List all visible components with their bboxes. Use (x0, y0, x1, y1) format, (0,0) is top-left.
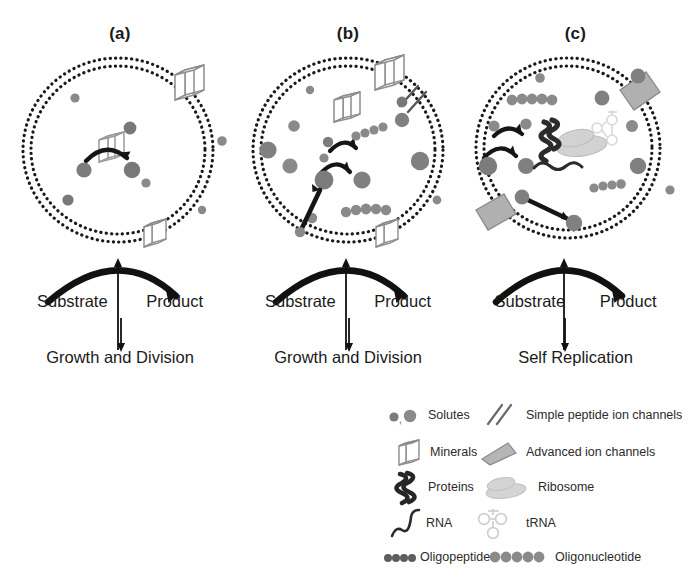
panel-c: (c) (460, 0, 691, 400)
ribosome-icon (480, 475, 530, 501)
trna-icon (474, 507, 518, 539)
product-label-c: Product (600, 292, 657, 311)
solute (630, 158, 646, 174)
reaction-network-c (484, 128, 522, 158)
legend-label-trna: tRNA (526, 516, 556, 530)
product-label-a: Product (146, 292, 203, 311)
solute (433, 196, 442, 205)
legend: , Solutes Simple peptide ion channels Mi… (380, 400, 691, 580)
legend-label-solutes: Solutes (428, 408, 470, 422)
panel-c-label: (c) (460, 24, 691, 44)
solute (397, 97, 408, 108)
substrate-label-a: Substrate (37, 292, 108, 311)
legend-row-rna: RNA tRNA (380, 506, 691, 540)
substrate-label-b: Substrate (265, 292, 336, 311)
solute (288, 120, 300, 132)
solute (665, 185, 674, 194)
solute (520, 118, 531, 129)
substrate-label-c: Substrate (494, 292, 565, 311)
flow-labels-b: Substrate Product (232, 292, 464, 311)
solute (488, 120, 499, 131)
protocell-b (232, 48, 464, 258)
mineral-membrane-b (376, 219, 398, 247)
solute (566, 215, 582, 231)
solute-product-b (353, 171, 370, 188)
solute-substrate-b (315, 171, 334, 190)
solute (411, 152, 429, 170)
legend-label-advanced-channels: Advanced ion channels (526, 445, 655, 459)
solute (282, 158, 297, 173)
legend-label-ribosome: Ribosome (538, 480, 594, 494)
legend-label-oligonucleotide: Oligonucleotide (555, 550, 641, 564)
protein-helix-c (541, 120, 559, 161)
mineral-external-b (375, 55, 404, 90)
mineral-catalyst-a (99, 132, 124, 162)
solute (217, 136, 227, 146)
solute (515, 190, 530, 205)
solute (626, 120, 638, 132)
solute (198, 206, 206, 214)
minerals-icon (394, 437, 428, 467)
protocell-c (460, 48, 691, 258)
solute (395, 113, 409, 127)
solute-substrate-c (479, 157, 497, 175)
legend-row-oligos: Oligopeptide Oligonucleotide (380, 542, 691, 576)
protocell-a (0, 48, 240, 258)
outcome-label-b: Growth and Division (232, 348, 464, 367)
mineral-membrane-a (144, 219, 166, 247)
mineral-internal-b (334, 92, 360, 122)
rna-icon-c (534, 163, 582, 170)
solute (319, 153, 328, 162)
solute (70, 93, 79, 102)
legend-row-solutes: , Solutes Simple peptide ion channels (380, 400, 691, 434)
legend-label-proteins: Proteins (428, 480, 474, 494)
solute-product-c (518, 158, 534, 174)
panel-b-label: (b) (232, 24, 464, 44)
outcome-label-c: Self Replication (460, 348, 691, 367)
svg-text:,: , (399, 414, 402, 425)
oligopeptide-icon (382, 548, 424, 568)
mineral-external-a (175, 65, 204, 100)
solute (62, 194, 73, 205)
oligopeptide-c (589, 179, 625, 192)
solutes-icon: , (386, 404, 422, 428)
solute-small-b (323, 137, 333, 147)
oligopeptide-b (351, 122, 387, 140)
panel-a: (a) (0, 0, 240, 400)
outcome-label-a: Growth and Division (0, 348, 240, 367)
product-label-b: Product (374, 292, 431, 311)
oligonucleotide-b (341, 204, 391, 218)
legend-label-rna: RNA (426, 516, 452, 530)
legend-label-simple-channels: Simple peptide ion channels (526, 408, 682, 422)
advanced-channel-icon (478, 439, 522, 467)
legend-row-minerals: Minerals Advanced ion channels (380, 436, 691, 470)
rna-icon (386, 506, 422, 540)
advanced-channel-bottom-c (476, 194, 516, 230)
panel-b: (b) (232, 0, 464, 400)
solute-product-a (124, 162, 140, 178)
oligonucleotide-icon (488, 546, 548, 568)
oligonucleotide-c (507, 94, 558, 106)
simple-peptide-channel-icon (484, 402, 518, 428)
solute (259, 141, 276, 158)
solute-substrate-a (76, 162, 91, 177)
flow-labels-c: Substrate Product (460, 292, 691, 311)
solute (124, 122, 137, 135)
legend-label-minerals: Minerals (430, 445, 477, 459)
solute (306, 86, 314, 94)
solute (141, 178, 150, 187)
solute (631, 69, 646, 84)
flow-labels-a: Substrate Product (0, 292, 240, 311)
legend-label-oligopeptide: Oligopeptide (420, 550, 490, 564)
panel-a-label: (a) (0, 24, 240, 44)
solute (595, 91, 610, 106)
solute (535, 73, 545, 83)
legend-row-proteins: Proteins Ribosome (380, 470, 691, 504)
solute (295, 227, 305, 237)
proteins-icon (392, 470, 426, 504)
